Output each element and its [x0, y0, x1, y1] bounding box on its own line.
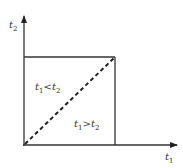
- diagram-canvas: t2 t1 t1<t2 t1>t2: [0, 0, 183, 168]
- diagram-svg: [0, 0, 183, 168]
- y-axis-label-sub: 2: [13, 25, 17, 33]
- x-axis-label: t1: [165, 151, 174, 165]
- region-sub2: 2: [95, 124, 99, 132]
- region-op: <: [44, 81, 52, 92]
- region-label-lower-right: t1>t2: [74, 118, 99, 132]
- region-sub2: 2: [56, 87, 60, 95]
- y-axis-label: t2: [9, 19, 18, 33]
- x-axis-label-sub: 1: [169, 157, 173, 165]
- region-op: >: [83, 118, 91, 129]
- region-label-upper-left: t1<t2: [35, 81, 60, 95]
- diagonal-dashed-line: [25, 58, 114, 144]
